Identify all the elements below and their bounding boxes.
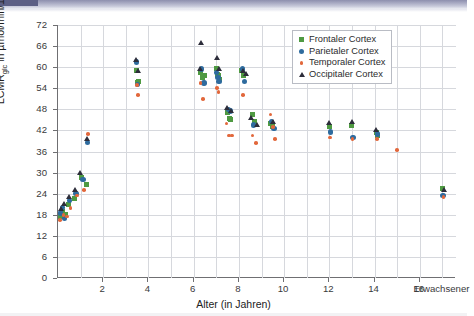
data-point (77, 170, 83, 175)
data-point (395, 148, 399, 152)
data-point (69, 206, 73, 210)
data-point (84, 182, 89, 187)
data-point (254, 141, 258, 145)
data-point (269, 113, 273, 117)
legend-label: Occipitaler Cortex (309, 69, 383, 81)
data-point (373, 127, 379, 132)
data-point (80, 177, 85, 182)
legend-marker-icon (297, 37, 306, 42)
y-tick-mark (53, 278, 57, 279)
x-tick-mark (147, 278, 148, 282)
x-tick-mark (102, 278, 103, 282)
legend-item: Occipitaler Cortex (297, 69, 385, 81)
y-tick-label: 30 (17, 167, 47, 178)
data-point (216, 66, 222, 71)
y-tick-mark (53, 130, 57, 131)
y-tick-mark (53, 173, 57, 174)
gridline-vertical (194, 25, 195, 278)
data-point (84, 136, 90, 141)
data-point (65, 215, 69, 219)
data-point (242, 79, 247, 84)
legend-item: Parietaler Cortex (297, 46, 385, 58)
data-point (326, 120, 332, 125)
legend-marker-icon (297, 72, 306, 77)
gridline-vertical (81, 25, 82, 278)
y-tick-label: 6 (17, 251, 47, 262)
x-tick-label: 12 (308, 283, 348, 294)
data-point (248, 115, 254, 120)
data-point (86, 132, 90, 136)
y-tick-label: 60 (17, 61, 47, 72)
y-tick-mark (53, 194, 57, 195)
y-tick-label: 0 (17, 272, 47, 283)
data-point (225, 122, 229, 126)
data-point (61, 201, 67, 206)
data-point (230, 134, 234, 138)
y-tick-label: 66 (17, 40, 47, 51)
legend-marker-icon (297, 49, 306, 54)
data-point (133, 57, 139, 62)
data-point (270, 119, 276, 124)
data-point (351, 137, 355, 141)
y-axis-label: LCMRglc in µmol/min/100g (0, 0, 9, 104)
gridline-vertical (216, 25, 217, 278)
data-point (441, 187, 447, 192)
data-point (198, 40, 204, 45)
data-point (273, 137, 277, 141)
data-point (375, 137, 379, 141)
x-tick-mark (283, 278, 284, 282)
y-tick-label: 24 (17, 188, 47, 199)
y-axis-label-tail: in µmol/min/100g (0, 0, 6, 65)
data-point (75, 194, 79, 198)
data-point (254, 122, 260, 127)
y-axis-label-sub: glc (0, 65, 9, 75)
x-tick-label: 6 (173, 283, 213, 294)
data-point (82, 188, 86, 192)
data-point (216, 79, 221, 84)
y-tick-mark (53, 46, 57, 47)
data-point (58, 206, 64, 211)
y-tick-label: 18 (17, 209, 47, 220)
gridline-vertical (420, 25, 421, 278)
data-point (243, 71, 249, 76)
x-axis-label: Alter (in Jahren) (0, 298, 467, 310)
gridline-vertical (171, 25, 172, 278)
data-point (58, 218, 62, 222)
x-tick-label: 2 (82, 283, 122, 294)
gridline-vertical (126, 25, 127, 278)
legend-label: Frontaler Cortex (309, 34, 376, 46)
y-tick-mark (53, 109, 57, 110)
gridline-vertical (239, 25, 240, 278)
y-tick-mark (53, 152, 57, 153)
data-point (241, 93, 245, 97)
data-point (66, 194, 72, 199)
y-tick-label: 42 (17, 124, 47, 135)
y-tick-mark (53, 236, 57, 237)
data-point (202, 73, 207, 78)
y-tick-label: 72 (17, 19, 47, 30)
gridline-vertical (262, 25, 263, 278)
data-point (328, 129, 333, 134)
y-tick-mark (53, 88, 57, 89)
y-tick-label: 54 (17, 82, 47, 93)
data-point (349, 119, 355, 124)
y-tick-mark (53, 67, 57, 68)
data-point (442, 195, 446, 199)
y-tick-label: 12 (17, 230, 47, 241)
data-point (217, 90, 221, 94)
data-point (251, 134, 255, 138)
data-point (271, 125, 275, 129)
x-tick-mark (193, 278, 194, 282)
x-tick-mark (374, 278, 375, 282)
y-tick-mark (53, 257, 57, 258)
y-tick-label: 36 (17, 146, 47, 157)
data-point (197, 66, 203, 71)
x-tick-label-adult: Erwachsener (405, 283, 474, 294)
legend-label: Temporaler Cortex (309, 57, 385, 69)
y-axis-label-main: LCMR (0, 74, 6, 104)
data-point (72, 196, 77, 201)
data-point (135, 68, 141, 73)
gridline-vertical (442, 25, 443, 278)
data-point (228, 108, 234, 113)
